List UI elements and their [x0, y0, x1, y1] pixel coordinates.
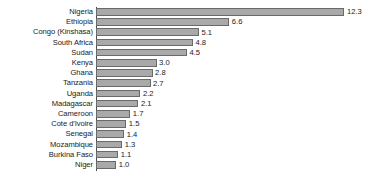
category-label: Sudan [0, 48, 93, 57]
bar-row: Ghana2.8 [0, 68, 378, 78]
bar [96, 28, 199, 36]
bar-row: Mozambique1.3 [0, 140, 378, 150]
category-label: Ethiopia [0, 17, 93, 26]
bar [96, 120, 126, 128]
bar-value-label: 1.1 [121, 150, 132, 159]
category-label: South Africa [0, 38, 93, 47]
category-label: Cameroon [0, 109, 93, 118]
plot-area: Nigeria12.3Ethiopia6.6Congo (Kinshasa)5.… [0, 0, 378, 181]
bar [96, 151, 118, 159]
category-label: Niger [0, 160, 93, 169]
category-label: Burkina Faso [0, 150, 93, 159]
bar-row: Ethiopia6.6 [0, 17, 378, 27]
bar-row: Senegal1.4 [0, 129, 378, 139]
bar-value-label: 2.2 [143, 89, 154, 98]
bar [96, 141, 122, 149]
bar-row: Tanzania2.7 [0, 78, 378, 88]
bar [96, 18, 229, 26]
bar-value-label: 1.0 [119, 160, 130, 169]
bar [96, 79, 151, 87]
category-label: Congo (Kinshasa) [0, 27, 93, 36]
bar [96, 90, 140, 98]
bar [96, 110, 130, 118]
category-label: Nigeria [0, 7, 93, 16]
bar-value-label: 6.6 [232, 17, 243, 26]
bar-row: Congo (Kinshasa)5.1 [0, 27, 378, 37]
bar-row: Burkina Faso1.1 [0, 150, 378, 160]
bar [96, 8, 344, 16]
bar-value-label: 1.5 [129, 119, 140, 128]
bar [96, 59, 157, 67]
bar [96, 39, 193, 47]
category-label: Ghana [0, 68, 93, 77]
bar-row: Niger1.0 [0, 160, 378, 170]
category-label: Kenya [0, 58, 93, 67]
bar-value-label: 12.3 [347, 7, 362, 16]
bar-value-label: 1.3 [125, 140, 136, 149]
category-label: Cote d'Ivoire [0, 119, 93, 128]
bar [96, 49, 187, 57]
bar-row: Cote d'Ivoire1.5 [0, 119, 378, 129]
bar-value-label: 1.7 [133, 109, 144, 118]
bar-value-label: 4.5 [189, 48, 200, 57]
bar-value-label: 4.8 [195, 38, 206, 47]
bar-value-label: 5.1 [202, 28, 213, 37]
category-label: Mozambique [0, 140, 93, 149]
bar-row: Cameroon1.7 [0, 109, 378, 119]
bar-row: Kenya3.0 [0, 58, 378, 68]
bar [96, 161, 116, 169]
bar-value-label: 2.1 [141, 99, 152, 108]
bar-row: Madagascar2.1 [0, 99, 378, 109]
bar [96, 69, 153, 77]
bar-row: South Africa4.8 [0, 38, 378, 48]
bar-row: Uganda2.2 [0, 89, 378, 99]
category-label: Senegal [0, 129, 93, 138]
bar-value-label: 2.7 [153, 79, 164, 88]
category-label: Tanzania [0, 78, 93, 87]
bar-value-label: 3.0 [159, 58, 170, 67]
bar-value-label: 2.8 [155, 68, 166, 77]
category-label: Uganda [0, 89, 93, 98]
bar-chart: Nigeria12.3Ethiopia6.6Congo (Kinshasa)5.… [0, 0, 378, 181]
bar-row: Nigeria12.3 [0, 7, 378, 17]
bar [96, 100, 138, 108]
bar-row: Sudan4.5 [0, 48, 378, 58]
bar-value-label: 1.4 [127, 130, 138, 139]
bar [96, 130, 124, 138]
category-label: Madagascar [0, 99, 93, 108]
